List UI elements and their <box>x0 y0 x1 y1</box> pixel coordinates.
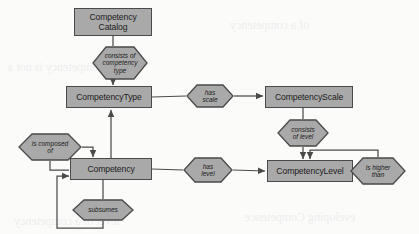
relationship-label: has level <box>183 157 233 183</box>
relationship-label: subsumes <box>72 199 134 221</box>
relationship-label: consists of level <box>277 119 329 147</box>
entity-label: Competency Catalog <box>89 12 136 32</box>
relationship-label: consists of competency type <box>92 46 148 80</box>
entity-competency-level[interactable]: CompetencyLevel <box>267 160 353 182</box>
entity-label: CompetencyType <box>76 92 141 102</box>
relationship-is-composed-of[interactable]: is composed of <box>18 133 82 161</box>
entity-competency-scale[interactable]: CompetencyScale <box>265 86 353 108</box>
wire-type-to-hasscale <box>152 96 186 97</box>
connector-layer <box>0 0 419 234</box>
relationship-consists-of-level[interactable]: consists of level <box>277 119 329 147</box>
wire-iscomposed-to-competency <box>82 147 93 157</box>
entity-competency-catalog[interactable]: Competency Catalog <box>74 8 152 36</box>
wire-haslevel-to-level <box>233 170 265 171</box>
wire-competency-to-iscomposed <box>50 161 69 170</box>
entity-label: CompetencyLevel <box>276 166 343 176</box>
relationship-has-level[interactable]: has level <box>183 157 233 183</box>
relationship-is-higher-than[interactable]: is higher than <box>350 157 406 185</box>
er-diagram: competency is not a of a competency evel… <box>0 0 419 234</box>
relationship-label: is composed of <box>18 133 82 161</box>
relationship-label: has scale <box>186 84 234 108</box>
entity-label: CompetencyScale <box>275 92 343 102</box>
relationship-has-scale[interactable]: has scale <box>186 84 234 108</box>
relationship-label: is higher than <box>350 157 406 185</box>
relationship-subsumes[interactable]: subsumes <box>72 199 134 221</box>
entity-label: Competency <box>87 164 134 174</box>
entity-competency[interactable]: Competency <box>70 158 152 180</box>
wire-competency-to-haslevel <box>152 169 183 170</box>
entity-competency-type[interactable]: CompetencyType <box>66 86 152 108</box>
relationship-consists-of-competency-type[interactable]: consists of competency type <box>92 46 148 80</box>
